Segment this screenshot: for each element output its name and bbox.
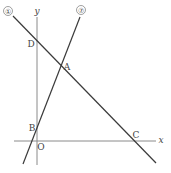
diagram-canvas: ① ⑦ y x O D A B C	[0, 0, 171, 173]
line-i-label: ①	[5, 8, 11, 16]
coordinate-plane: ① ⑦ y x O D A B C	[0, 0, 171, 173]
line-a-label: ⑦	[78, 7, 84, 15]
point-b-label: B	[29, 123, 36, 133]
origin-label: O	[37, 142, 44, 152]
y-axis-label: y	[33, 6, 40, 16]
point-a-label: A	[63, 62, 71, 72]
point-d-label: D	[27, 39, 34, 49]
x-axis-label: x	[158, 135, 163, 145]
point-c-label: C	[133, 130, 140, 140]
